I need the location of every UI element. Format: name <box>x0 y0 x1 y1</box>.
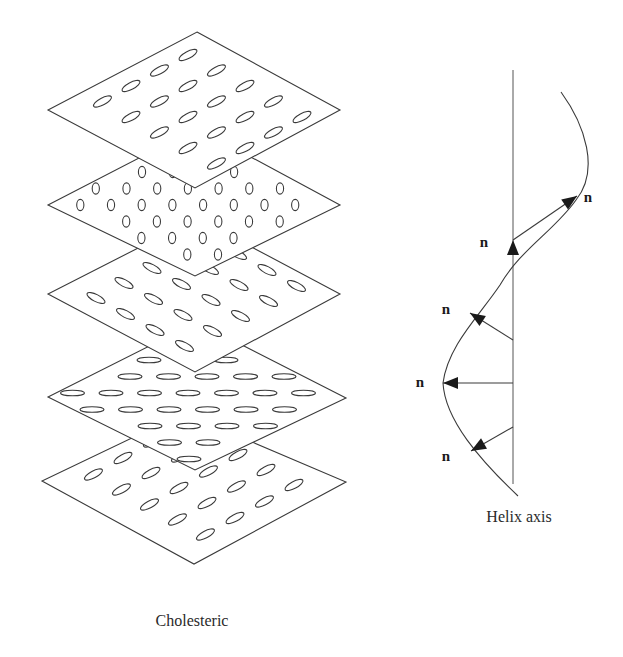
arrowhead-icon <box>471 438 487 451</box>
helix-director-diagram: nnnnn Helix axis <box>416 70 593 525</box>
arrowhead-icon <box>443 377 458 389</box>
arrowhead-icon <box>470 313 486 326</box>
director-vector: n <box>416 374 513 390</box>
cholesteric-caption: Cholesteric <box>156 612 229 629</box>
director-vector: n <box>442 427 513 464</box>
plane-1-top <box>48 32 340 188</box>
director-label-n: n <box>480 234 489 250</box>
director-label-n: n <box>442 301 451 317</box>
director-vector: n <box>513 189 593 240</box>
cholesteric-layer-stack <box>42 32 346 564</box>
arrowhead-icon <box>507 240 519 255</box>
director-label-n: n <box>584 189 593 205</box>
helix-axis-caption: Helix axis <box>486 508 551 525</box>
director-arrows: nnnnn <box>416 189 593 464</box>
cholesteric-helix-diagram: nnnnn Helix axis Cholesteric <box>0 0 623 657</box>
helix-curve <box>443 92 588 496</box>
director-label-n: n <box>416 374 425 390</box>
director-label-n: n <box>442 448 451 464</box>
director-vector: n <box>442 301 513 340</box>
